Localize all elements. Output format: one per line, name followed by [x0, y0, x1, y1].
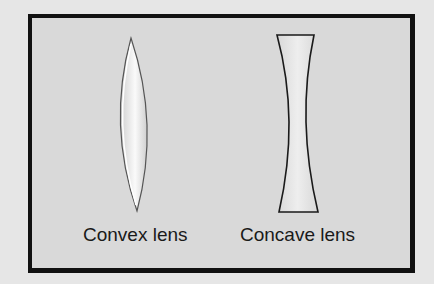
lens-diagram — [0, 0, 434, 284]
convex-lens-label: Convex lens — [83, 224, 188, 246]
concave-lens-label: Concave lens — [240, 224, 355, 246]
concave-lens-icon — [277, 35, 318, 212]
convex-lens-icon — [120, 38, 147, 211]
